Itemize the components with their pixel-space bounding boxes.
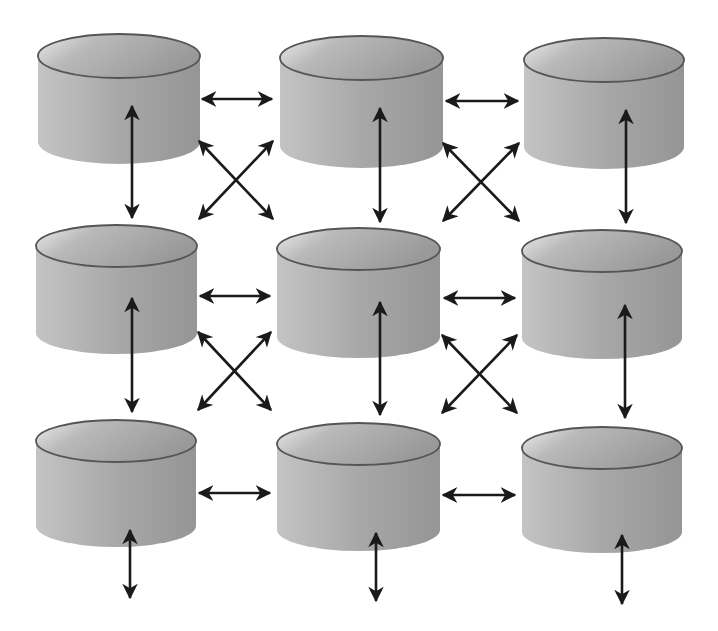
cylinder-node-r1c1: [38, 34, 200, 164]
cylinder-node-r1c2: [280, 36, 443, 168]
cylinder-top: [524, 38, 684, 82]
cylinder-node-r3c2: [277, 423, 440, 551]
cylinder-top: [36, 225, 197, 267]
cylinder-node-r3c3: [522, 427, 682, 553]
cylinder-node-r1c3: [524, 38, 684, 169]
cylinder-top: [522, 427, 682, 469]
cylinder-node-r2c3: [522, 230, 682, 359]
cylinder-top: [280, 36, 443, 80]
cylinder-top: [277, 423, 440, 465]
cylinder-node-r2c2: [277, 228, 440, 358]
cylinder-top: [277, 228, 440, 270]
cylinder-top: [36, 420, 196, 462]
cylinder-top: [522, 230, 682, 272]
cylinder-node-r3c1: [36, 420, 196, 547]
cylinder-node-r2c1: [36, 225, 197, 354]
cylinder-top: [38, 34, 200, 78]
mesh-network-diagram: [0, 0, 718, 631]
diagram-canvas: [0, 0, 718, 631]
